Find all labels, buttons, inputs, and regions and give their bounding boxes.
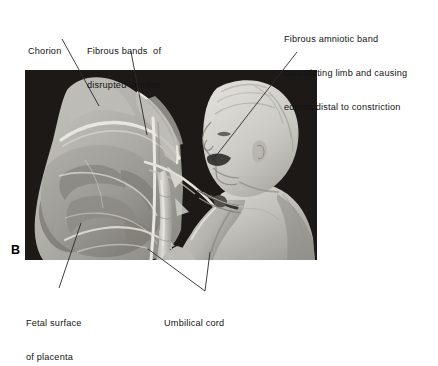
label-fetal-surface: Fetal surface of placenta: [26, 295, 82, 366]
label-umbilical-cord: Umbilical cord: [164, 295, 224, 352]
label-fibrous-amniotic-band-line-1: Fibrous amniotic band: [284, 34, 407, 45]
label-chorion-line-1: Chorion: [28, 46, 61, 57]
label-umbilical-cord-line-1: Umbilical cord: [164, 318, 224, 329]
panel-letter: B: [11, 243, 20, 257]
plate-contents: [25, 70, 317, 260]
label-fibrous-amniotic-band-line-3: edema distal to constriction: [284, 102, 407, 113]
label-fibrous-bands-line-1: Fibrous bands of: [87, 46, 161, 57]
label-fetal-surface-line-2: of placenta: [26, 352, 82, 363]
plate-texture: [25, 70, 317, 260]
label-fibrous-bands-line-2: disrupted amnion: [87, 80, 161, 91]
label-fetal-surface-line-1: Fetal surface: [26, 318, 82, 329]
label-fibrous-amniotic-band: Fibrous amniotic band constricting limb …: [284, 11, 407, 136]
label-chorion: Chorion: [28, 23, 61, 80]
label-fibrous-bands: Fibrous bands of disrupted amnion: [87, 23, 161, 114]
illustration-plate: [25, 70, 317, 260]
label-fibrous-amniotic-band-line-2: constricting limb and causing: [284, 68, 407, 79]
